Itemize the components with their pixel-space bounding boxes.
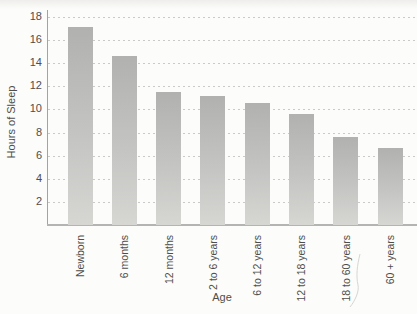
gridline-8 [48,133,417,134]
x-tick-label-4: 6 to 12 years [250,235,264,314]
y-tick-label-2: 2 [10,194,42,209]
bar-12 months [156,92,181,225]
bar-6 to 12 years [245,103,270,225]
hours-of-sleep-bar-chart: 24681012141618 Newborn6 months12 months2… [0,0,417,314]
x-tick-label-1: 6 months [117,235,131,314]
bar-18 to 60 years [333,137,358,225]
bar-12 to 18 years [289,114,314,225]
x-axis-baseline [47,224,417,226]
gridline-4 [48,179,417,180]
x-tick-label-7: 60 + years [383,235,397,314]
gridline-12 [48,86,417,87]
bar-60 + years [378,148,403,225]
x-axis-title: Age [199,290,245,305]
y-axis-title: Hours of Sleep [3,57,19,187]
bar-6 months [112,56,137,225]
bar-2 to 6 years [200,96,225,225]
gridline-10 [48,109,417,110]
bar-Newborn [68,27,93,225]
y-tick-label-16: 16 [10,32,42,47]
gridline-18 [48,17,417,18]
gridline-2 [48,202,417,203]
scan-smudge-top [0,0,417,9]
gridline-6 [48,156,417,157]
gridline-14 [48,63,417,64]
y-axis-line [47,10,48,225]
y-tick-label-18: 18 [10,9,42,24]
x-tick-label-5: 12 to 18 years [294,235,308,314]
pen-mark-artifact [344,252,374,312]
x-tick-label-0: Newborn [73,235,87,314]
x-tick-label-2: 12 months [162,235,176,314]
gridline-16 [48,40,417,41]
